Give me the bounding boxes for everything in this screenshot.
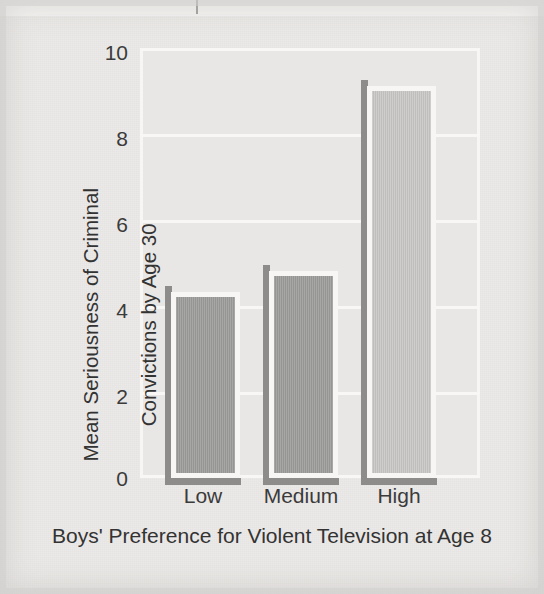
gridline-10 — [140, 48, 480, 51]
bar-high-halftone — [372, 91, 431, 473]
scanned-chart-page: 10 8 6 4 2 0 Mean Seriousness of Crimina… — [0, 0, 544, 594]
bar-medium-fill — [274, 276, 333, 473]
bar-medium-halftone — [274, 276, 333, 473]
bar-high-fill — [372, 91, 431, 473]
y-axis-title-line-1: Mean Seriousness of Criminal — [76, 130, 105, 520]
bar-chart: 10 8 6 4 2 0 Mean Seriousness of Crimina… — [0, 0, 544, 594]
bar-medium[interactable] — [263, 265, 339, 485]
y-axis-title-line-2: Convictions by Age 30 — [135, 130, 164, 520]
bar-high[interactable] — [361, 80, 437, 485]
x-tick-label-high: High — [339, 484, 459, 508]
y-tick-label-10: 10 — [88, 42, 128, 63]
x-axis-title: Boys' Preference for Violent Television … — [0, 524, 544, 548]
y-axis-title: Mean Seriousness of Criminal Convictions… — [47, 130, 193, 520]
